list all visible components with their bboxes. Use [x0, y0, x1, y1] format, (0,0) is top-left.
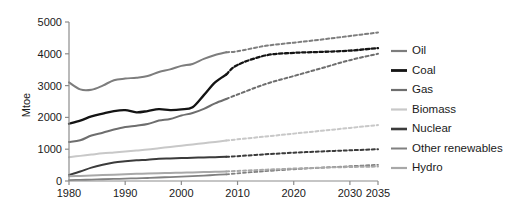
legend-label-gas: Gas — [412, 83, 433, 95]
y-axis-label: Mtoe — [20, 93, 32, 117]
y-tick-label: 3000 — [38, 80, 62, 92]
legend-label-coal: Coal — [412, 64, 436, 76]
x-tick-label: 1980 — [57, 187, 81, 199]
x-tick-label: 1990 — [113, 187, 137, 199]
series-line-projection-nuclear — [226, 149, 378, 157]
y-tick-label: 0 — [56, 175, 62, 187]
y-tick-label: 1000 — [38, 143, 62, 155]
x-tick-label: 2000 — [169, 187, 193, 199]
series-line-history-coal — [69, 74, 226, 123]
chart-legend: OilCoalGasBiomassNuclearOther renewables… — [391, 44, 503, 173]
series-line-projection-coal — [226, 48, 378, 74]
series-line-projection-hydro — [226, 167, 378, 172]
series-line-history-biomass — [69, 141, 226, 158]
plot-area: 0100020003000400050001980199020002010202… — [38, 16, 391, 199]
y-tick-label: 2000 — [38, 111, 62, 123]
legend-label-hydro: Hydro — [412, 161, 443, 173]
series-line-history-gas — [69, 99, 226, 142]
legend-label-other-renewables: Other renewables — [412, 142, 503, 154]
x-tick-label: 2020 — [281, 187, 305, 199]
series-line-history-oil — [69, 52, 226, 90]
legend-label-oil: Oil — [412, 44, 426, 56]
energy-projection-line-chart: 0100020003000400050001980199020002010202… — [0, 0, 515, 217]
x-tick-label: 2010 — [225, 187, 249, 199]
y-tick-label: 4000 — [38, 48, 62, 60]
y-tick-label: 5000 — [38, 16, 62, 28]
series-line-projection-biomass — [226, 125, 378, 141]
chart-figure: 0100020003000400050001980199020002010202… — [0, 0, 515, 217]
series-group — [69, 32, 378, 180]
legend-label-nuclear: Nuclear — [412, 122, 452, 134]
x-tick-label: 2030 — [338, 187, 362, 199]
legend-label-biomass: Biomass — [412, 103, 456, 115]
x-tick-label: 2035 — [366, 187, 390, 199]
